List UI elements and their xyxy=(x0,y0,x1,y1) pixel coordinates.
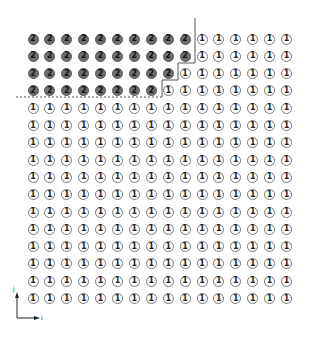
axis-indicator xyxy=(15,292,40,320)
i-arrowhead-icon xyxy=(34,316,40,320)
boundary-overlay xyxy=(0,0,310,338)
i-axis-label: i xyxy=(41,314,43,321)
partition-boundary-solid xyxy=(162,18,195,97)
j-axis-label: j xyxy=(13,285,15,292)
j-arrowhead-icon xyxy=(15,292,19,298)
